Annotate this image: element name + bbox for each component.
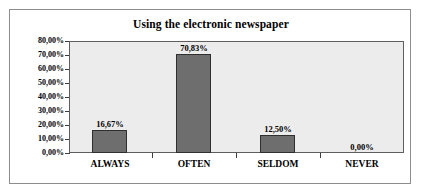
bar-seldom[interactable] [260, 135, 295, 153]
y-axis-label: 10,00% [12, 135, 64, 143]
y-axis-label: 80,00% [12, 37, 64, 45]
y-axis-label: 70,00% [12, 51, 64, 59]
y-axis-label: 20,00% [12, 121, 64, 129]
y-axis-label: 40,00% [12, 93, 64, 101]
x-axis-tick [152, 153, 153, 158]
y-axis-label: 30,00% [12, 107, 64, 115]
y-axis-label: 0,00% [12, 149, 64, 157]
y-axis-label: 50,00% [12, 79, 64, 87]
x-axis-category-seldom: SELDOM [246, 160, 310, 170]
x-axis-category-always: ALWAYS [78, 160, 142, 170]
x-axis-category-never: NEVER [330, 160, 394, 170]
value-label-often: 70,83% [166, 44, 222, 53]
x-axis-tick [236, 153, 237, 158]
x-axis-tick [320, 153, 321, 158]
chart-title: Using the electronic newspaper [10, 18, 412, 30]
value-label-always: 16,67% [82, 120, 138, 129]
bar-often[interactable] [176, 54, 211, 153]
value-label-never: 0,00% [334, 143, 390, 152]
y-axis-label: 60,00% [12, 65, 64, 73]
y-axis-tick [65, 153, 70, 154]
x-axis-category-often: OFTEN [162, 160, 226, 170]
bar-always[interactable] [92, 130, 127, 153]
value-label-seldom: 12,50% [250, 125, 306, 134]
chart-frame: Using the electronic newspaper 80,00% 70… [9, 9, 411, 184]
